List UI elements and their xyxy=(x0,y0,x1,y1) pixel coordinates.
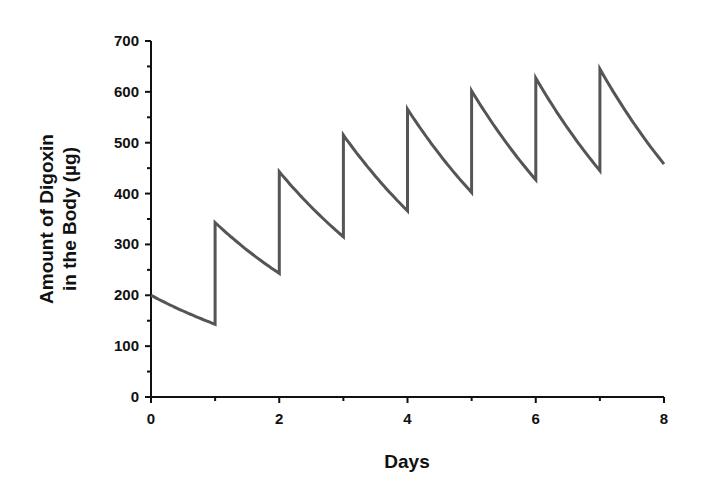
y-tick-label: 0 xyxy=(131,388,139,405)
x-axis: 02468 xyxy=(147,397,668,427)
digoxin-amount-line xyxy=(151,69,664,324)
x-axis-title: Days xyxy=(384,451,429,472)
y-tick-label: 400 xyxy=(114,185,139,202)
y-axis: 0100200300400500600700 xyxy=(114,32,151,405)
digoxin-chart: 0100200300400500600700 02468 Days Amount… xyxy=(0,0,704,500)
y-tick-label: 600 xyxy=(114,83,139,100)
x-tick-label: 8 xyxy=(660,410,668,427)
y-tick-label: 300 xyxy=(114,235,139,252)
y-axis-title-line-1: Amount of Digoxin xyxy=(36,134,57,304)
y-tick-label: 500 xyxy=(114,134,139,151)
y-tick-label: 700 xyxy=(114,32,139,49)
y-tick-label: 200 xyxy=(114,286,139,303)
x-tick-label: 0 xyxy=(147,410,155,427)
x-tick-label: 4 xyxy=(403,410,412,427)
x-tick-label: 6 xyxy=(532,410,540,427)
y-axis-title-line-2: in the Body (µg) xyxy=(59,147,80,291)
y-tick-label: 100 xyxy=(114,337,139,354)
x-tick-label: 2 xyxy=(275,410,283,427)
